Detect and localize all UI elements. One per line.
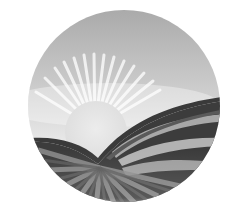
logo-canvas: Circular grayscale logo of a sun rising … [0,0,240,218]
sunrise-logo-icon [0,0,240,218]
